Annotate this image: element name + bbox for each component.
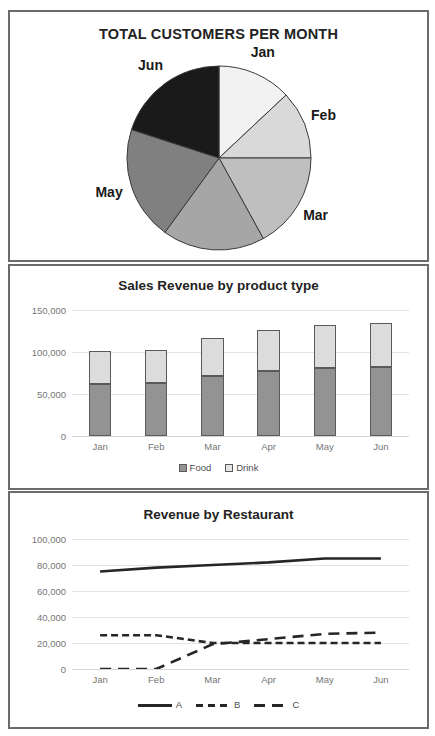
worksheet-page: TOTAL CUSTOMERS PER MONTH Jun Jan Feb Ma… [0, 0, 435, 736]
legend-item-food[interactable]: Food [179, 462, 212, 473]
bar-chart-panel: Sales Revenue by product type 050,000100… [8, 264, 429, 490]
bar-plot-area: 050,000100,000150,000JanFebMarAprMayJun [72, 310, 409, 436]
pie-plot-area: Jun Jan Feb Mar Apr May [10, 58, 427, 258]
bar-column-jun [370, 310, 392, 436]
bar-column-may [314, 310, 336, 436]
legend-item-a[interactable]: A [138, 699, 182, 710]
line-y-tick-label: 40,000 [37, 612, 66, 623]
pie-chart-title: TOTAL CUSTOMERS PER MONTH [10, 26, 427, 42]
legend-line-icon [138, 704, 172, 707]
bar-column-jan [89, 310, 111, 436]
line-y-tick-label: 20,000 [37, 638, 66, 649]
bar-x-tick-label: Feb [148, 441, 164, 452]
legend-line-icon [254, 704, 288, 707]
bar-column-feb [145, 310, 167, 436]
legend-item-c[interactable]: C [254, 699, 299, 710]
bar-x-tick-label: May [316, 441, 334, 452]
bar-y-tick-label: 150,000 [32, 305, 66, 316]
legend-line-icon [196, 704, 230, 707]
pie-label-feb: Feb [311, 107, 336, 123]
legend-label: A [176, 699, 182, 710]
line-x-tick-label: Jan [92, 674, 107, 685]
legend-label: C [292, 699, 299, 710]
legend-label: B [234, 699, 240, 710]
bar-segment-drink [314, 325, 336, 368]
bar-segment-food [314, 368, 336, 436]
legend-label: Food [190, 462, 212, 473]
legend-item-drink[interactable]: Drink [225, 462, 258, 473]
line-plot-area: 020,00040,00060,00080,000100,000JanFebMa… [72, 539, 409, 669]
bar-gridline [72, 310, 409, 311]
pie-chart-svg [119, 58, 319, 258]
line-chart-panel: Revenue by Restaurant 020,00040,00060,00… [8, 491, 429, 729]
bar-segment-drink [257, 330, 279, 371]
bar-segment-drink [201, 338, 223, 377]
line-series-a [100, 559, 381, 572]
bar-x-tick-label: Apr [261, 441, 276, 452]
legend-item-b[interactable]: B [196, 699, 240, 710]
bar-segment-drink [145, 350, 167, 384]
line-chart-title: Revenue by Restaurant [10, 507, 427, 522]
bar-x-tick-label: Jun [373, 441, 388, 452]
bar-segment-food [370, 367, 392, 436]
line-chart-svg [72, 539, 409, 669]
bar-segment-food [201, 376, 223, 436]
bar-segment-food [257, 371, 279, 436]
pie-label-may: May [95, 184, 122, 200]
bar-column-mar [201, 310, 223, 436]
bar-chart-title: Sales Revenue by product type [10, 278, 427, 293]
line-x-tick-label: Feb [148, 674, 164, 685]
pie-label-jun: Jun [138, 57, 163, 73]
legend-swatch-icon [179, 464, 187, 472]
line-chart-legend: ABC [10, 699, 427, 710]
line-y-tick-label: 0 [61, 664, 66, 675]
bar-x-tick-label: Jan [92, 441, 107, 452]
bar-segment-drink [89, 351, 111, 384]
bar-y-tick-label: 0 [61, 431, 66, 442]
pie-label-mar: Mar [303, 207, 328, 223]
bar-y-tick-label: 50,000 [37, 389, 66, 400]
line-y-tick-label: 60,000 [37, 586, 66, 597]
bar-segment-food [89, 384, 111, 436]
line-x-tick-label: Jun [373, 674, 388, 685]
bar-y-tick-label: 100,000 [32, 347, 66, 358]
line-x-tick-label: Mar [204, 674, 220, 685]
line-x-tick-label: May [316, 674, 334, 685]
bar-chart-legend: FoodDrink [10, 462, 427, 473]
bar-gridline [72, 436, 409, 437]
line-series-c [100, 633, 381, 669]
pie-chart-panel: TOTAL CUSTOMERS PER MONTH Jun Jan Feb Ma… [8, 10, 429, 262]
bar-segment-food [145, 383, 167, 436]
bar-segment-drink [370, 323, 392, 367]
bar-gridline [72, 352, 409, 353]
legend-label: Drink [236, 462, 258, 473]
line-y-tick-label: 80,000 [37, 560, 66, 571]
legend-swatch-icon [225, 464, 233, 472]
line-y-tick-label: 100,000 [32, 534, 66, 545]
bar-column-apr [257, 310, 279, 436]
line-x-tick-label: Apr [261, 674, 276, 685]
line-gridline [72, 669, 409, 670]
bar-gridline [72, 394, 409, 395]
pie-label-jan: Jan [251, 44, 275, 60]
bar-x-tick-label: Mar [204, 441, 220, 452]
